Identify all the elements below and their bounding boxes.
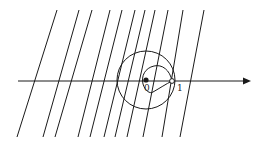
- origin-point: [143, 77, 148, 82]
- parallel-line: [90, 10, 122, 137]
- parallel-lines: [17, 10, 204, 137]
- origin-label: 0: [144, 83, 150, 93]
- diagram-canvas: 0 1: [0, 0, 264, 147]
- axis-arrow-icon: [243, 78, 251, 85]
- unit-point: [170, 79, 175, 84]
- parallel-line: [180, 10, 204, 137]
- parallel-line: [162, 10, 183, 137]
- parallel-line: [78, 10, 110, 137]
- unit-label: 1: [177, 83, 183, 93]
- parallel-line: [143, 10, 168, 137]
- parallel-line: [17, 10, 57, 137]
